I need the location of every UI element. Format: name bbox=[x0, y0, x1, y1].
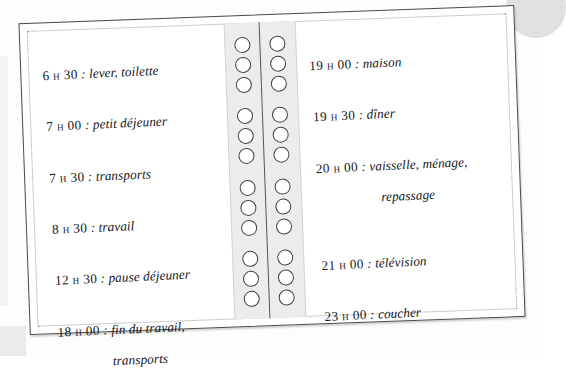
binding-ring-icon bbox=[234, 37, 251, 54]
entry-separator: : bbox=[100, 322, 112, 337]
entry-time: 8 h 30 bbox=[52, 220, 88, 237]
binding-ring-icon bbox=[272, 127, 289, 144]
entry-separator: : bbox=[97, 271, 109, 286]
binding-ring-icon bbox=[242, 251, 259, 268]
binding-ring-icon bbox=[238, 148, 255, 165]
entry-time: 19 h 00 bbox=[309, 57, 352, 74]
binding-ring-icon bbox=[277, 249, 294, 266]
schedule-entry: 12 h 30 : pause déjeuner bbox=[54, 251, 219, 289]
binding-ring-icon bbox=[276, 218, 293, 235]
entry-activity: fin du travail, bbox=[111, 319, 185, 337]
entry-time: 6 h 30 bbox=[42, 67, 78, 84]
binding-ring-group bbox=[230, 179, 266, 236]
binding-ring-icon bbox=[269, 35, 286, 52]
binding-ring-group bbox=[228, 108, 264, 165]
binding-ring-group bbox=[260, 35, 296, 92]
entry-activity: travail bbox=[98, 218, 134, 235]
entry-separator: : bbox=[363, 255, 375, 270]
entry-separator: : bbox=[358, 159, 370, 174]
entry-time: 12 h 30 bbox=[55, 271, 98, 288]
entry-time: 18 h 00 bbox=[57, 323, 100, 340]
entry-separator: : bbox=[84, 169, 96, 184]
binding-ring-icon bbox=[237, 128, 254, 145]
entry-activity-continuation: repassage bbox=[317, 183, 500, 206]
entry-activity: dîner bbox=[366, 106, 395, 122]
schedule-entry: 7 h 00 : petit déjeuner bbox=[45, 97, 213, 135]
binding-ring-group bbox=[233, 250, 269, 307]
binding-ring-icon bbox=[240, 199, 257, 216]
entry-time: 19 h 30 bbox=[313, 108, 356, 125]
binding-ring-icon bbox=[278, 269, 295, 286]
binding-ring-icon bbox=[274, 178, 291, 195]
entry-activity: pause déjeuner bbox=[108, 267, 190, 286]
entry-activity: maison bbox=[362, 54, 401, 71]
entry-activity: coucher bbox=[378, 305, 422, 322]
entry-activity: petit déjeuner bbox=[93, 114, 168, 132]
spiral-binding bbox=[224, 21, 307, 319]
binding-ring-icon bbox=[270, 55, 287, 72]
scan-smudge-left-edge bbox=[0, 56, 8, 306]
binding-ring-icon bbox=[236, 77, 253, 94]
entry-separator: : bbox=[355, 107, 367, 122]
entry-time: 7 h 30 bbox=[49, 169, 85, 186]
scan-smudge-bottom-left bbox=[0, 326, 26, 356]
schedule-entry: 20 h 00 : vaisselle, ménage, repassage bbox=[315, 138, 500, 222]
schedule-entry: 21 h 00 : télévision bbox=[321, 234, 502, 272]
entry-separator: : bbox=[77, 66, 89, 82]
binding-ring-icon bbox=[271, 75, 288, 92]
entry-separator: : bbox=[87, 220, 99, 235]
entry-activity: transports bbox=[95, 166, 151, 183]
entry-separator: : bbox=[81, 117, 93, 132]
schedule-entry: 7 h 30 : transports bbox=[48, 148, 215, 186]
entry-time: 21 h 00 bbox=[321, 256, 364, 273]
entry-activity: télévision bbox=[375, 253, 427, 270]
entry-time: 23 h 00 bbox=[324, 307, 367, 324]
entry-activity-continuation: transports bbox=[59, 347, 223, 370]
notebook-spread: 6 h 30 : lever, toilette 7 h 00 : petit … bbox=[18, 5, 525, 335]
binding-ring-group bbox=[263, 106, 299, 163]
binding-ring-icon bbox=[243, 271, 260, 288]
schedule-entry: 23 h 00 : coucher bbox=[323, 286, 503, 324]
schedule-entry: 18 h 00 : fin du travail, transports bbox=[57, 302, 223, 371]
binding-ring-icon bbox=[239, 179, 256, 196]
binding-ring-group bbox=[225, 36, 261, 93]
entry-separator: : bbox=[366, 307, 378, 322]
right-page: 19 h 00 : maison 19 h 30 : dîner 20 h 00… bbox=[294, 13, 518, 317]
entry-separator: : bbox=[351, 56, 363, 71]
page-frame: 6 h 30 : lever, toilette 7 h 00 : petit … bbox=[18, 5, 525, 335]
binding-ring-icon bbox=[243, 291, 260, 308]
binding-ring-icon bbox=[235, 57, 252, 74]
schedule-entry: 6 h 30 : lever, toilette bbox=[41, 45, 211, 83]
binding-ring-icon bbox=[237, 108, 254, 125]
entry-time: 20 h 00 bbox=[316, 159, 359, 176]
entry-time: 7 h 00 bbox=[46, 118, 82, 135]
schedule-entry: 19 h 30 : dîner bbox=[312, 86, 496, 125]
binding-ring-icon bbox=[273, 147, 290, 164]
binding-ring-group bbox=[265, 178, 301, 235]
binding-ring-icon bbox=[241, 219, 258, 236]
binding-ring-group bbox=[268, 249, 304, 306]
binding-ring-icon bbox=[272, 107, 289, 124]
schedule-entry: 19 h 00 : maison bbox=[308, 35, 494, 74]
schedule-entry: 8 h 30 : travail bbox=[51, 200, 217, 238]
binding-ring-icon bbox=[275, 198, 292, 215]
binding-ring-icon bbox=[278, 289, 295, 306]
entry-activity: vaisselle, ménage, bbox=[369, 154, 468, 173]
entry-activity: lever, toilette bbox=[89, 63, 159, 81]
left-page: 6 h 30 : lever, toilette 7 h 00 : petit … bbox=[27, 24, 235, 327]
